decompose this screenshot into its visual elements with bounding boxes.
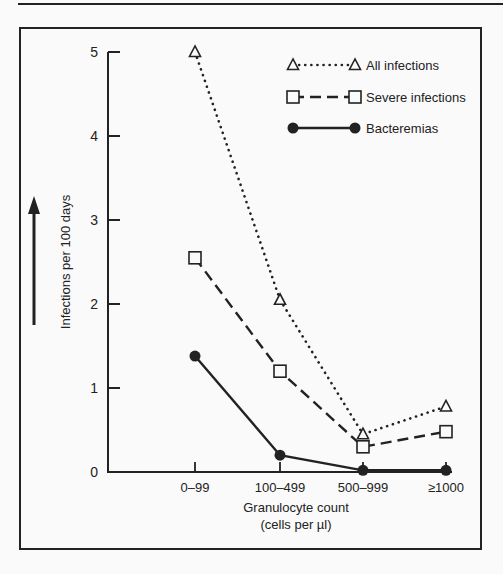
y-tick-label: 5 — [90, 44, 98, 60]
open-triangle-marker-icon — [275, 294, 286, 305]
series-bacteremias — [190, 351, 452, 476]
open-triangle-marker-icon — [190, 46, 201, 57]
open-square-marker-icon — [189, 252, 201, 264]
plot-area — [189, 46, 452, 476]
series-severe-infections — [189, 252, 452, 453]
legend: All infectionsSevere infectionsBacteremi… — [287, 58, 466, 136]
y-tick-label: 4 — [90, 128, 98, 144]
legend-label: All infections — [366, 58, 439, 73]
x-tick-label: 500–999 — [338, 480, 389, 495]
open-square-marker-icon — [357, 441, 369, 453]
y-axis-arrow-icon — [28, 196, 40, 325]
y-tick-label: 0 — [90, 464, 98, 480]
legend-item: Severe infections — [287, 90, 466, 105]
chart: 012345 0–99100–499500–999≥1000 Infection… — [0, 0, 503, 574]
legend-item: Bacteremias — [288, 121, 439, 136]
legend-label: Bacteremias — [366, 121, 439, 136]
y-axis-label: Infections per 100 days — [58, 194, 73, 329]
x-tick-label: 100–499 — [255, 480, 306, 495]
y-tick-label: 1 — [90, 380, 98, 396]
open-square-legend-icon — [287, 91, 299, 103]
open-triangle-legend-icon — [350, 59, 361, 70]
filled-circle-marker-icon — [358, 465, 369, 476]
legend-item: All infections — [288, 58, 440, 73]
open-square-marker-icon — [440, 426, 452, 438]
x-axis-sublabel: (cells per µl) — [260, 517, 331, 532]
legend-label: Severe infections — [366, 90, 466, 105]
filled-circle-legend-icon — [350, 123, 361, 134]
x-axis-label: Granulocyte count — [243, 500, 349, 515]
filled-circle-legend-icon — [288, 123, 299, 134]
x-axis: 0–99100–499500–999≥1000 — [107, 462, 464, 495]
open-triangle-marker-icon — [441, 400, 452, 411]
y-tick-label: 3 — [90, 212, 98, 228]
filled-circle-marker-icon — [441, 465, 452, 476]
open-square-marker-icon — [274, 365, 286, 377]
open-square-legend-icon — [349, 91, 361, 103]
filled-circle-marker-icon — [190, 351, 201, 362]
x-tick-label: 0–99 — [181, 480, 210, 495]
x-tick-label: ≥1000 — [428, 480, 464, 495]
filled-circle-marker-icon — [275, 450, 286, 461]
y-tick-label: 2 — [90, 296, 98, 312]
open-triangle-legend-icon — [288, 59, 299, 70]
y-axis: 012345 — [90, 44, 120, 480]
